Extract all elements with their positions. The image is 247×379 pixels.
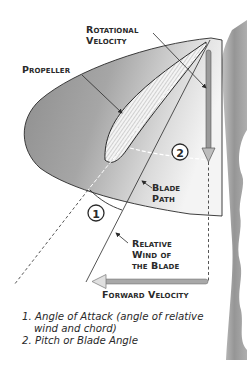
svg-text:1: 1 — [92, 208, 100, 221]
rotational-velocity-shaft — [206, 50, 211, 150]
svg-text:2: 2 — [176, 147, 184, 160]
rotational-label-line2: Velocity — [86, 35, 138, 46]
forward-velocity-label: Forward Velocity — [102, 289, 189, 300]
blade-path-line1: Blade — [152, 182, 180, 193]
angle-marker-1: 1 — [88, 205, 104, 221]
legend-item-1: 1. Angle of Attack (angle of relative — [22, 311, 203, 323]
legend-text: Pitch or Blade Angle — [35, 335, 138, 346]
forward-velocity-arrowhead — [92, 275, 106, 289]
blade-path-label: Blade Path — [152, 182, 180, 204]
rotational-label-line1: Rotational — [86, 24, 138, 35]
relative-wind-leader — [116, 233, 128, 243]
legend: 1. Angle of Attack (angle of relative wi… — [22, 311, 203, 347]
relative-wind-line2: Wind of — [132, 249, 179, 260]
forward-velocity-shaft — [104, 279, 208, 284]
angle-marker-2: 2 — [172, 144, 188, 160]
legend-num: 2. — [22, 335, 32, 346]
legend-item-1-cont: wind and chord) — [22, 323, 203, 335]
chord-extension — [14, 190, 88, 285]
legend-num: 1. — [22, 311, 32, 322]
relative-wind-line1: Relative — [132, 238, 179, 249]
legend-item-2: 2. Pitch or Blade Angle — [22, 335, 203, 347]
legend-text: Angle of Attack (angle of relative — [35, 311, 203, 322]
rotational-velocity-label: Rotational Velocity — [86, 24, 138, 46]
relative-wind-label: Relative Wind of the Blade — [132, 238, 179, 271]
relative-wind-line3: the Blade — [132, 260, 179, 271]
blade-path-line2: Path — [152, 193, 180, 204]
propeller-label: Propeller — [22, 64, 70, 75]
